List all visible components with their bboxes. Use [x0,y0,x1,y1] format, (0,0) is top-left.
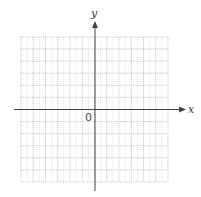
origin-label: 0 [85,111,92,124]
coordinate-plane: x y 0 [0,0,201,197]
x-axis-arrow-icon [179,107,186,113]
x-axis [14,107,186,113]
y-axis-arrow-icon [92,21,98,28]
y-axis-label: y [90,7,98,20]
x-axis-label: x [188,103,195,116]
y-axis [92,21,98,191]
